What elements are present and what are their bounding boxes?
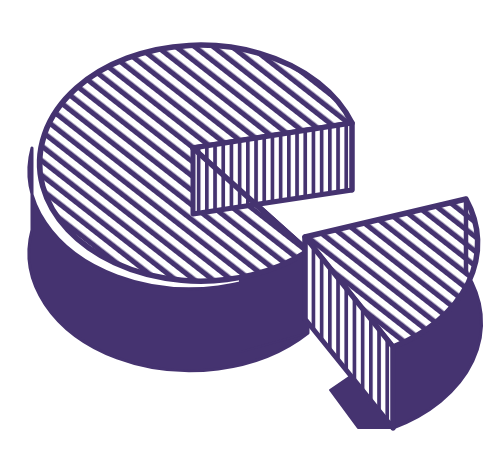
wedge-slice-group	[280, 180, 496, 440]
pie-wedge-illustration	[0, 0, 496, 463]
illustration-canvas	[0, 0, 496, 463]
